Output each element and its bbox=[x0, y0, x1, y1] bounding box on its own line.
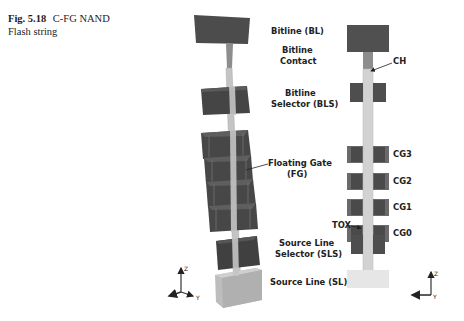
right-axis-y: Y bbox=[433, 291, 437, 302]
nand-string-diagram bbox=[0, 0, 464, 321]
label-cg1: CG1 bbox=[393, 202, 412, 213]
cs-bitline bbox=[347, 25, 389, 52]
3d-nand-string bbox=[194, 15, 268, 308]
label-bls-1: Bitline bbox=[285, 88, 316, 99]
right-axis-z: Z bbox=[434, 268, 438, 279]
cs-source-line bbox=[347, 270, 389, 288]
cross-section bbox=[347, 25, 392, 288]
label-bls-2: Selector (BLS) bbox=[271, 99, 338, 110]
left-axis-z: Z bbox=[184, 263, 188, 274]
label-sls-2: Selector (SLS) bbox=[275, 249, 342, 260]
label-bitline-contact-2: Contact bbox=[280, 56, 317, 67]
label-bitline: Bitline (BL) bbox=[271, 26, 324, 37]
bitline-contact bbox=[226, 44, 233, 68]
cs-sls-left bbox=[351, 235, 363, 254]
bls-block bbox=[201, 86, 250, 115]
cs-channel bbox=[363, 69, 373, 277]
right-axis-triad bbox=[412, 272, 431, 295]
label-sl: Source Line (SL) bbox=[270, 277, 347, 288]
fg-block-3 bbox=[201, 130, 251, 159]
label-cg0: CG0 bbox=[393, 228, 412, 239]
ch-pointer bbox=[371, 63, 392, 71]
label-bitline-contact-1: Bitline bbox=[282, 45, 313, 56]
label-sls-1: Source Line bbox=[279, 238, 334, 249]
label-cg3: CG3 bbox=[393, 149, 412, 160]
cs-contact bbox=[363, 52, 373, 69]
label-cg2: CG2 bbox=[393, 176, 412, 187]
left-axis-triad bbox=[169, 268, 193, 296]
label-fg-2: (FG) bbox=[287, 169, 307, 180]
cs-bls-right bbox=[373, 83, 386, 102]
label-tox: TOX bbox=[332, 220, 351, 231]
label-ch: CH bbox=[393, 56, 406, 67]
left-axis-y: Y bbox=[196, 292, 200, 303]
bitline-block bbox=[194, 15, 250, 44]
cs-sls-right bbox=[373, 235, 385, 254]
cs-bls-left bbox=[350, 83, 363, 102]
label-fg-1: Floating Gate bbox=[268, 158, 332, 169]
